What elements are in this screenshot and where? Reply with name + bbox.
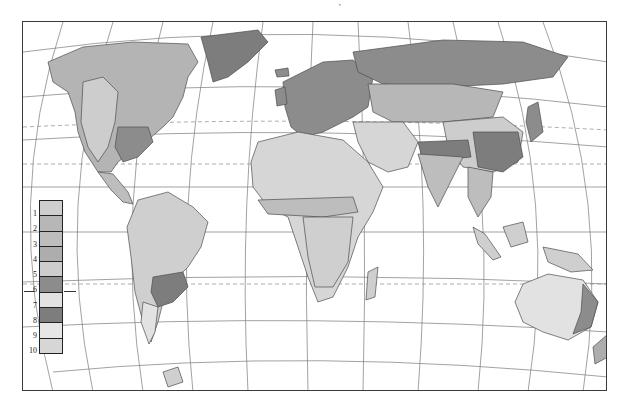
patagonia	[141, 302, 158, 344]
legend-swatch-1	[40, 201, 62, 216]
new-zealand	[593, 334, 607, 364]
uk	[275, 87, 287, 106]
new-guinea	[543, 247, 593, 272]
sahel	[258, 197, 358, 217]
legend-label-4: 4	[29, 255, 37, 265]
legend-swatch-4	[40, 247, 62, 262]
legend-label-5: 5	[29, 270, 37, 280]
legend-swatch-7	[40, 293, 62, 308]
antarctic-islands	[163, 367, 183, 387]
legend	[39, 200, 63, 354]
legend-label-7: 7	[29, 301, 37, 311]
eastern-usa	[115, 127, 153, 162]
legend-label-9: 9	[29, 331, 37, 341]
pampas	[151, 272, 188, 307]
central-america	[98, 172, 133, 204]
legend-tick-right	[64, 291, 76, 292]
map-frame	[22, 21, 607, 391]
legend-label-8: 8	[29, 316, 37, 326]
eastern-china	[473, 132, 523, 172]
legend-swatch-5	[40, 262, 62, 277]
legend-label-10: 10	[29, 346, 37, 356]
madagascar	[366, 267, 378, 300]
southeast-asia	[468, 167, 493, 217]
legend-swatch-6	[40, 277, 62, 292]
japan	[526, 102, 543, 142]
landmasses	[48, 30, 607, 387]
legend-label-1: 1	[29, 209, 37, 219]
india	[418, 154, 463, 207]
greenland	[201, 30, 268, 82]
iceland	[275, 68, 289, 77]
legend-swatch-3	[40, 232, 62, 247]
legend-swatch-9	[40, 323, 62, 338]
legend-swatch-8	[40, 308, 62, 323]
legend-swatch-2	[40, 216, 62, 231]
world-map	[23, 22, 607, 391]
legend-swatch-10	[40, 339, 62, 353]
legend-label-6: 6	[29, 285, 37, 295]
legend-label-2: 2	[29, 224, 37, 234]
top-mark: '	[339, 2, 341, 12]
central-asia	[368, 84, 503, 122]
south-america	[127, 192, 208, 342]
borneo	[503, 222, 528, 247]
siberia	[353, 40, 568, 87]
legend-label-3: 3	[29, 240, 37, 250]
